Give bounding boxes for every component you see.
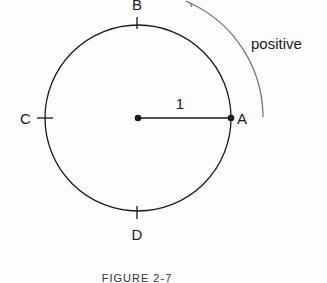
- point-a-dot: [228, 115, 235, 122]
- figure-caption: FIGURE 2-7: [102, 272, 173, 283]
- label-b: B: [132, 0, 142, 13]
- center-point: [135, 115, 142, 122]
- positive-direction-arc: [190, 3, 263, 117]
- label-a: A: [237, 110, 247, 127]
- unit-circle-diagram: B A C D 1 positive FIGURE 2-7: [0, 0, 327, 283]
- label-c: C: [20, 110, 31, 127]
- positive-label: positive: [251, 35, 302, 52]
- label-d: D: [132, 226, 143, 243]
- radius-label: 1: [176, 95, 184, 112]
- arrowhead-icon: [186, 1, 192, 7]
